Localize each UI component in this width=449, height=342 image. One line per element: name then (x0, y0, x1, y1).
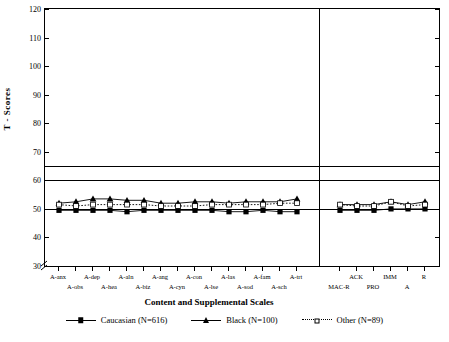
x-tick-label: MAC-R (328, 283, 349, 290)
y-tick-label: 40 (33, 233, 41, 242)
x-tick-label: A-hea (101, 283, 117, 290)
data-point (74, 204, 79, 209)
x-tick-mark (177, 267, 178, 271)
data-point (278, 201, 283, 206)
x-tick-label: A-sch (271, 283, 287, 290)
data-point (406, 204, 411, 209)
data-point (193, 204, 198, 209)
plot-area: 30405060708090100110120 (44, 8, 440, 266)
y-tick-label: 110 (29, 33, 41, 42)
data-point (209, 208, 214, 213)
y-tick-label: 50 (33, 204, 41, 213)
legend-label: Black (N=100) (226, 315, 277, 325)
data-point (355, 204, 360, 209)
data-point (56, 208, 61, 213)
legend-line-swatch (302, 319, 332, 321)
series-line (340, 209, 425, 210)
y-tick-label: 120 (29, 5, 41, 14)
data-point (226, 209, 231, 214)
x-tick-label: A-biz (136, 283, 151, 290)
data-point (295, 201, 300, 206)
x-tick-mark (58, 267, 59, 271)
data-point (260, 208, 265, 213)
y-axis-title: T - Scores (2, 74, 12, 144)
x-tick-mark (424, 267, 425, 271)
data-point (91, 202, 96, 207)
legend-label: Caucasian (N=616) (101, 315, 167, 325)
x-tick-mark (356, 267, 357, 271)
legend-line-swatch (191, 320, 221, 321)
y-tick-label: 70 (33, 147, 41, 156)
x-tick-mark (109, 267, 110, 271)
plot-inner: 30405060708090100110120 (45, 9, 439, 266)
legend-marker-icon (78, 317, 84, 323)
x-tick-label: A-aln (119, 273, 134, 280)
x-tick-label: A-fam (254, 273, 271, 280)
legend-item: Other (N=89) (302, 315, 384, 325)
data-point (142, 202, 147, 207)
x-tick-label: PRO (367, 283, 380, 290)
x-tick-mark (373, 267, 374, 271)
legend-marker-icon (314, 318, 319, 323)
x-tick-mark (279, 267, 280, 271)
data-point (261, 202, 266, 207)
x-tick-label: ACK (349, 273, 363, 280)
x-tick-label: A-ang (152, 273, 168, 280)
y-tick-label: 90 (33, 90, 41, 99)
x-tick-label: A-obs (67, 283, 83, 290)
data-point (141, 208, 146, 213)
x-tick-mark (211, 267, 212, 271)
x-tick-label: A-con (186, 273, 202, 280)
data-point (277, 209, 282, 214)
data-point (108, 202, 113, 207)
x-tick-label: A-lse (204, 283, 218, 290)
legend-line-swatch (66, 320, 96, 321)
x-tick-mark (160, 267, 161, 271)
series-layer (45, 9, 439, 266)
x-tick-label: IMM (383, 273, 397, 280)
data-point (57, 202, 62, 207)
y-tick-label: 80 (33, 119, 41, 128)
data-point (159, 204, 164, 209)
data-point (124, 209, 129, 214)
x-tick-label: A-trt (290, 273, 303, 280)
chart-legend: Caucasian (N=616)Black (N=100)Other (N=8… (0, 315, 449, 325)
data-point (388, 206, 393, 211)
data-point (107, 208, 112, 213)
data-point (337, 208, 342, 213)
x-tick-mark (296, 267, 297, 271)
x-tick-mark (194, 267, 195, 271)
x-tick-mark (245, 267, 246, 271)
y-tick-label: 60 (33, 176, 41, 185)
legend-label: Other (N=89) (337, 315, 384, 325)
x-tick-mark (75, 267, 76, 271)
x-axis: A-anxA-obsA-depA-heaA-alnA-bizA-angA-cyn… (44, 266, 440, 267)
legend-marker-icon (203, 317, 209, 323)
x-tick-mark (126, 267, 127, 271)
x-tick-mark (143, 267, 144, 271)
x-tick-mark (339, 267, 340, 271)
x-tick-label: A-anx (50, 273, 66, 280)
legend-item: Caucasian (N=616) (66, 315, 167, 325)
data-point (176, 204, 181, 209)
chart-figure: T - Scores 30405060708090100110120 A-anx… (0, 0, 449, 342)
data-point (372, 204, 377, 209)
data-point (243, 209, 248, 214)
data-point (423, 202, 428, 207)
axis-break-icon (39, 256, 53, 272)
x-tick-label: A-sod (237, 283, 253, 290)
data-point (294, 209, 299, 214)
x-tick-mark (262, 267, 263, 271)
x-tick-label: A (405, 283, 410, 290)
legend-item: Black (N=100) (191, 315, 277, 325)
data-point (244, 202, 249, 207)
y-tick-label: 100 (29, 62, 41, 71)
x-tick-mark (390, 267, 391, 271)
x-tick-label: A-cyn (169, 283, 185, 290)
x-tick-mark (92, 267, 93, 271)
data-point (227, 202, 232, 207)
x-tick-label: A-dep (84, 273, 100, 280)
x-axis-title: Content and Supplemental Scales (44, 297, 374, 307)
data-point (338, 202, 343, 207)
x-tick-label: R (422, 273, 426, 280)
